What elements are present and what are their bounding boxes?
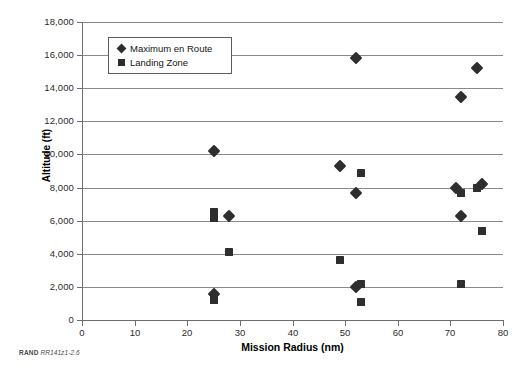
y-tick-label-wrap: 18,000 — [8, 22, 74, 23]
chart-canvas: 02,0004,0006,0008,00010,00012,00014,0001… — [0, 0, 529, 372]
x-tick — [503, 321, 504, 326]
legend-label: Maximum en Route — [128, 43, 212, 54]
diamond-marker-icon — [114, 45, 128, 52]
x-axis-title: Mission Radius (nm) — [82, 341, 503, 353]
x-tick — [240, 321, 241, 326]
y-tick-label: 0 — [14, 314, 74, 325]
x-tick-label: 20 — [167, 327, 207, 338]
x-tick-label: 40 — [273, 327, 313, 338]
data-point-square — [473, 184, 481, 192]
x-tick — [187, 321, 188, 326]
x-tick-label: 50 — [325, 327, 365, 338]
x-tick-label: 0 — [62, 327, 102, 338]
legend-label: Landing Zone — [128, 57, 188, 68]
data-point-square — [210, 296, 218, 304]
legend-item-maximum-en-route: Maximum en Route — [114, 41, 226, 55]
gridline — [82, 221, 503, 222]
figure-caption: RAND RR141z1-2.6 — [19, 349, 80, 356]
data-point-square — [210, 214, 218, 222]
y-tick-label-wrap: 0 — [8, 320, 74, 321]
x-tick — [398, 321, 399, 326]
gridline — [82, 121, 503, 122]
data-point-square — [336, 256, 344, 264]
y-tick-label: 2,000 — [14, 281, 74, 292]
caption-figure-id: RR141z1-2.6 — [40, 349, 79, 356]
gridline — [82, 88, 503, 89]
data-point-square — [357, 298, 365, 306]
gridline — [82, 188, 503, 189]
data-point-square — [478, 227, 486, 235]
data-point-diamond — [470, 62, 483, 75]
data-point-square — [225, 248, 233, 256]
x-tick — [135, 321, 136, 326]
y-tick-label: 4,000 — [14, 248, 74, 259]
data-point-square — [457, 189, 465, 197]
x-tick-label: 70 — [430, 327, 470, 338]
data-point-diamond — [207, 145, 220, 158]
caption-org: RAND — [19, 349, 39, 356]
gridline — [82, 287, 503, 288]
y-tick-label: 18,000 — [14, 16, 74, 27]
y-tick-label-wrap: 2,000 — [8, 287, 74, 288]
y-tick-label-wrap: 16,000 — [8, 55, 74, 56]
x-tick-label: 60 — [378, 327, 418, 338]
gridline — [82, 22, 503, 23]
x-tick — [345, 321, 346, 326]
y-tick-label-wrap: 14,000 — [8, 88, 74, 89]
y-tick-label-wrap: 6,000 — [8, 221, 74, 222]
y-tick-label-wrap: 4,000 — [8, 254, 74, 255]
chart-legend: Maximum en Route Landing Zone — [108, 37, 232, 74]
data-point-diamond — [349, 52, 362, 65]
data-point-square — [457, 280, 465, 288]
legend-item-landing-zone: Landing Zone — [114, 55, 226, 69]
gridline — [82, 254, 503, 255]
square-marker-icon — [114, 59, 128, 66]
y-axis-title: Altitude (ft) — [41, 96, 52, 216]
x-tick-label: 10 — [115, 327, 155, 338]
gridline — [82, 154, 503, 155]
data-point-diamond — [455, 90, 468, 103]
x-tick-label: 30 — [220, 327, 260, 338]
data-point-square — [357, 280, 365, 288]
y-tick-label: 6,000 — [14, 215, 74, 226]
data-point-square — [357, 169, 365, 177]
y-tick-label: 16,000 — [14, 49, 74, 60]
x-tick — [450, 321, 451, 326]
x-tick — [82, 321, 83, 326]
y-tick-label: 14,000 — [14, 82, 74, 93]
x-tick — [293, 321, 294, 326]
y-axis-line — [82, 22, 83, 321]
data-point-diamond — [333, 160, 346, 173]
x-tick-label: 80 — [483, 327, 523, 338]
